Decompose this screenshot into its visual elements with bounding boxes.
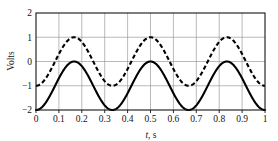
x-tick-label: 0.9 [236, 114, 248, 124]
x-tick-label: 0.6 [167, 114, 179, 124]
y-tick-label: 2 [27, 8, 32, 18]
x-axis-label-unit: , s [148, 130, 157, 140]
x-tick-label: 0.1 [53, 114, 65, 124]
y-tick-label: −1 [22, 81, 32, 91]
x-tick-label: 0.7 [190, 114, 202, 124]
x-tick-label: 0.8 [213, 114, 225, 124]
chart-figure: 00.10.20.30.40.50.60.70.80.91 210−1−2 t,… [0, 0, 278, 141]
x-tick-label: 0.4 [122, 114, 134, 124]
y-tick-label: 1 [27, 33, 32, 43]
x-tick-labels: 00.10.20.30.40.50.60.70.80.91 [34, 114, 268, 124]
x-tick-label: 0.2 [76, 114, 88, 124]
x-axis-label: t, s [145, 130, 156, 140]
x-tick-label: 1 [263, 114, 268, 124]
y-axis-label: Volts [6, 51, 16, 71]
x-tick-label: 0.5 [145, 114, 157, 124]
y-tick-label: −2 [22, 105, 32, 115]
voltage-waveform-chart: 00.10.20.30.40.50.60.70.80.91 210−1−2 t,… [0, 0, 278, 141]
y-tick-label: 0 [27, 57, 32, 67]
y-tick-labels: 210−1−2 [22, 8, 32, 115]
x-tick-label: 0.3 [99, 114, 111, 124]
x-tick-label: 0 [34, 114, 39, 124]
